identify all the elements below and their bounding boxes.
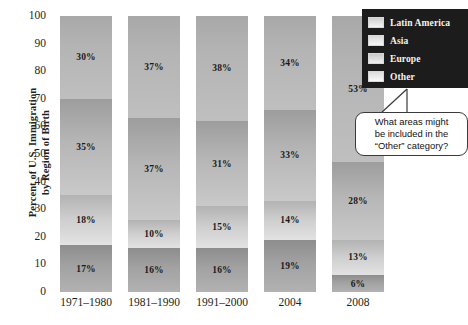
bar-segment-label: 6% — [332, 279, 384, 289]
legend-label: Latin America — [390, 18, 450, 28]
bar-segment: 16% — [128, 248, 180, 292]
x-axis-ticks: 1971–19801981–19901991–200020042008 — [52, 296, 392, 316]
y-axis-tick-label: 50 — [18, 147, 46, 159]
bar-segment: 30% — [60, 16, 112, 99]
y-axis-tick-label: 100 — [18, 9, 46, 21]
plot-area: 30%35%18%17%37%37%10%16%38%31%15%16%34%3… — [52, 16, 392, 292]
bar-segment: 31% — [196, 121, 248, 207]
legend-swatch-icon — [368, 71, 384, 82]
stacked-bar-chart: Percent of U.S. Immigration by Region of… — [0, 0, 468, 325]
stacked-bar: 38%31%15%16% — [196, 16, 248, 292]
y-axis-tick-label: 70 — [18, 92, 46, 104]
bar-segment: 37% — [128, 16, 180, 118]
y-axis-tick-label: 30 — [18, 202, 46, 214]
legend-label: Other — [390, 72, 415, 82]
bar-segment-label: 31% — [196, 159, 248, 169]
y-axis-tick-label: 0 — [18, 285, 46, 297]
callout-line-2: be included in the — [355, 128, 468, 140]
callout-annotation: What areas might be included in the “Oth… — [355, 112, 468, 156]
bar-segment: 18% — [60, 195, 112, 245]
legend-item-latin-america: Latin America — [368, 14, 464, 31]
bar-segment: 15% — [196, 206, 248, 247]
callout-tail-icon — [377, 87, 417, 114]
bar-segment-label: 30% — [60, 52, 112, 62]
bar-segment: 16% — [196, 248, 248, 292]
bar-segment-label: 14% — [264, 215, 316, 225]
legend-item-asia: Asia — [368, 32, 464, 49]
bar-segment-label: 37% — [128, 164, 180, 174]
y-axis-tick-label: 80 — [18, 64, 46, 76]
stacked-bar: 30%35%18%17% — [60, 16, 112, 292]
bar-segment: 13% — [332, 240, 384, 276]
legend-item-other: Other — [368, 68, 464, 85]
stacked-bar: 37%37%10%16% — [128, 16, 180, 292]
bar-segment-label: 37% — [128, 62, 180, 72]
bar-segment-label: 18% — [60, 215, 112, 225]
y-axis-tick-label: 90 — [18, 37, 46, 49]
bar-segment-label: 35% — [60, 142, 112, 152]
bar-segment: 38% — [196, 16, 248, 121]
bar-segment: 17% — [60, 245, 112, 292]
legend-swatch-icon — [368, 35, 384, 46]
y-axis-ticks: 1009080706050403020100 — [10, 0, 46, 325]
y-axis-tick-label: 40 — [18, 175, 46, 187]
legend-swatch-icon — [368, 17, 384, 28]
bar-segment: 28% — [332, 162, 384, 239]
bar-segment: 6% — [332, 275, 384, 292]
legend-swatch-icon — [368, 53, 384, 64]
callout-text: What areas might be included in the “Oth… — [355, 116, 468, 151]
bar-segment-label: 16% — [196, 265, 248, 275]
bar-segment-label: 33% — [264, 150, 316, 160]
bar-segment-label: 17% — [60, 264, 112, 274]
callout-line-3: “Other” category? — [355, 140, 468, 152]
bar-segment-label: 28% — [332, 196, 384, 206]
legend-item-europe: Europe — [368, 50, 464, 67]
bar-segment-label: 15% — [196, 222, 248, 232]
bar-segment: 14% — [264, 201, 316, 240]
x-axis-tick-label: 2008 — [318, 296, 398, 308]
bar-segment: 10% — [128, 220, 180, 248]
stacked-bar: 34%33%14%19% — [264, 16, 316, 292]
y-axis-tick-label: 60 — [18, 119, 46, 131]
y-axis-tick-label: 10 — [18, 257, 46, 269]
callout-line-1: What areas might — [355, 116, 468, 128]
legend: Latin America Asia Europe Other — [362, 9, 468, 88]
bar-segment: 35% — [60, 99, 112, 196]
bar-segment-label: 13% — [332, 252, 384, 262]
legend-label: Asia — [390, 36, 408, 46]
bar-segment-label: 19% — [264, 261, 316, 271]
bar-segment-label: 10% — [128, 229, 180, 239]
legend-label: Europe — [390, 54, 421, 64]
bar-segment-label: 16% — [128, 265, 180, 275]
bar-segment-label: 38% — [196, 63, 248, 73]
bar-segment: 37% — [128, 118, 180, 220]
bar-segment-label: 34% — [264, 58, 316, 68]
bar-segment: 34% — [264, 16, 316, 110]
bar-segment: 33% — [264, 110, 316, 201]
y-axis-tick-label: 20 — [18, 230, 46, 242]
bar-segment: 19% — [264, 240, 316, 292]
